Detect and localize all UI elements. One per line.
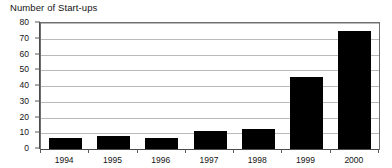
x-tick-mark-1 [88, 149, 89, 153]
x-tick-label-2000: 2000 [344, 155, 363, 165]
x-tick-mark-4 [233, 149, 234, 153]
bar-1998 [242, 129, 275, 149]
x-tick-label-1994: 1994 [55, 155, 74, 165]
bar-1999 [290, 77, 323, 149]
x-tick-label-1997: 1997 [200, 155, 219, 165]
x-tick-mark-7 [378, 149, 379, 153]
chart-title: Number of Start-ups [10, 2, 97, 14]
y-tick-label-40: 40 [20, 81, 29, 90]
bar-2000 [338, 31, 371, 149]
bars-layer [41, 23, 379, 149]
y-tick-label-60: 60 [20, 49, 29, 58]
x-tick-mark-2 [137, 149, 138, 153]
y-tick-label-10: 10 [20, 128, 29, 137]
x-tick-label-1999: 1999 [296, 155, 315, 165]
y-tick-label-30: 30 [20, 97, 29, 106]
y-tick-label-70: 70 [20, 34, 29, 43]
bar-1994 [49, 138, 82, 149]
x-tick-mark-5 [281, 149, 282, 153]
bar-1995 [97, 136, 130, 149]
x-tick-mark-0 [40, 149, 41, 153]
y-axis: 01020304050607080 [0, 22, 40, 148]
y-tick-label-20: 20 [20, 112, 29, 121]
x-tick-label-1998: 1998 [248, 155, 267, 165]
bar-1996 [145, 138, 178, 149]
y-tick-label-80: 80 [20, 18, 29, 27]
x-tick-mark-3 [185, 149, 186, 153]
y-tick-label-0: 0 [24, 144, 29, 153]
x-tick-mark-6 [330, 149, 331, 153]
bar-1997 [194, 131, 227, 149]
x-tick-label-1995: 1995 [103, 155, 122, 165]
x-axis: 1994199519961997199819992000 [40, 149, 378, 168]
x-tick-label-1996: 1996 [151, 155, 170, 165]
startups-bar-chart: Number of Start-ups 01020304050607080 19… [0, 0, 392, 168]
plot-area [40, 22, 380, 150]
y-tick-label-50: 50 [20, 65, 29, 74]
